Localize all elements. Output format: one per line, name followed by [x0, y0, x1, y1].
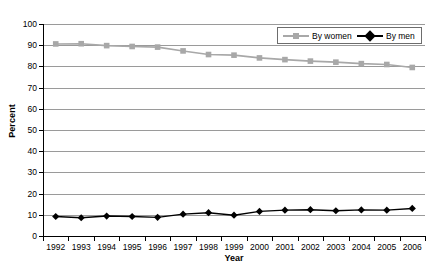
- data-point-marker: [53, 41, 59, 47]
- data-point-marker: [307, 206, 314, 213]
- data-point-marker: [78, 41, 84, 47]
- legend-label-by-men: By men: [386, 31, 415, 41]
- data-point-marker: [358, 206, 365, 213]
- data-point-marker: [231, 52, 237, 58]
- data-point-marker: [257, 55, 263, 61]
- data-point-marker: [205, 209, 212, 216]
- legend-label-by-women: By women: [312, 31, 352, 41]
- data-point-marker: [129, 213, 136, 220]
- data-point-marker: [256, 208, 263, 215]
- data-point-marker: [179, 211, 186, 218]
- legend-entry-by-men: By men: [357, 28, 415, 43]
- data-point-marker: [333, 59, 339, 65]
- data-point-marker: [332, 207, 339, 214]
- data-point-marker: [409, 65, 415, 71]
- data-point-marker: [78, 214, 85, 221]
- data-point-marker: [282, 57, 288, 63]
- data-point-marker: [230, 212, 237, 219]
- legend-swatch-diamond-icon: [357, 30, 383, 41]
- data-point-marker: [154, 214, 161, 221]
- chart-legend: By women By men: [277, 27, 422, 44]
- legend-entry-by-women: By women: [283, 28, 352, 43]
- data-point-marker: [384, 62, 390, 68]
- data-point-marker: [308, 58, 314, 64]
- data-point-marker: [206, 52, 212, 58]
- line-chart: Percent Year 1009080706050403020100 1992…: [0, 0, 443, 274]
- data-point-marker: [155, 44, 161, 50]
- data-point-marker: [409, 205, 416, 212]
- data-point-marker: [359, 61, 365, 67]
- data-point-marker: [129, 44, 135, 50]
- data-point-marker: [281, 207, 288, 214]
- data-point-marker: [103, 212, 110, 219]
- data-point-marker: [52, 213, 59, 220]
- data-point-marker: [383, 207, 390, 214]
- legend-swatch-square-icon: [283, 30, 309, 41]
- data-point-marker: [180, 48, 186, 54]
- data-point-marker: [104, 43, 110, 49]
